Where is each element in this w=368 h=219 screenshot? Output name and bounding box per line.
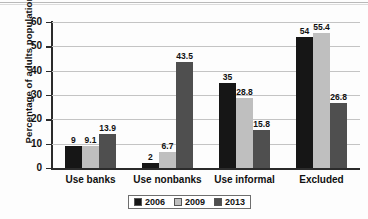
x-axis-category-label: Use banks [52,174,129,185]
bar-value-label: 28.8 [230,88,259,97]
legend-label: 2006 [145,198,165,207]
bar [65,146,82,168]
bar-value-label: 35 [213,73,242,82]
y-axis-tick-label: 30 [18,90,42,100]
bar [82,146,99,168]
figure-top-rule [0,2,368,3]
x-axis-category-label: Use nonbanks [129,174,206,185]
legend-swatch [214,198,222,206]
chart-legend: 200620092013 [128,195,251,209]
bar-value-label: 26.8 [324,93,353,102]
bar [330,103,347,168]
y-axis-tick-label: 10 [18,139,42,149]
bar-value-label: 55.4 [307,23,336,32]
legend-label: 2009 [185,198,205,207]
y-axis-tick-label-wrap: 40 [14,66,42,76]
y-axis-tick-label-wrap: 20 [14,114,42,124]
bar-value-label: 43.5 [170,52,199,61]
bar [176,62,193,168]
y-axis-tick-label: 20 [18,114,42,124]
bar-chart-figure: Percentage of adults population 01020304… [0,0,368,219]
legend-item: 2013 [214,198,245,207]
y-axis-tick-label: 60 [18,17,42,27]
legend-item: 2009 [174,198,205,207]
bar [159,152,176,168]
legend-item: 2006 [134,198,165,207]
y-axis-tick-label-wrap: 50 [14,41,42,51]
legend-swatch [174,198,182,206]
x-axis-category-label: Excluded [283,174,360,185]
bar [253,130,270,168]
bar [296,37,313,168]
plot-area: 99.113.926.743.53528.815.85455.426.8 [52,22,360,168]
bar [236,98,253,168]
figure-top-rule-secondary [0,4,368,5]
bar [99,134,116,168]
y-axis-tick-label: 50 [18,41,42,51]
legend-label: 2013 [225,198,245,207]
x-axis-line [51,168,360,170]
legend-swatch [134,198,142,206]
bar-value-label: 15.8 [247,120,276,129]
bar [142,163,159,168]
x-axis-category-label: Use informal [206,174,283,185]
y-axis-tick-label-wrap: 30 [14,90,42,100]
y-axis-tick-label-wrap: 60 [14,17,42,27]
y-axis-tick-label: 40 [18,66,42,76]
y-axis-tick-label: 0 [18,163,42,173]
bar-value-label: 13.9 [93,124,122,133]
y-axis-tick-label-wrap: 0 [14,163,42,173]
y-axis-tick-label-wrap: 10 [14,139,42,149]
